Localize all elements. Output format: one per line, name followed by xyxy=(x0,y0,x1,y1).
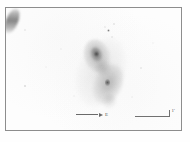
galaxy-north-nucleus xyxy=(94,51,99,57)
point-source xyxy=(140,67,142,69)
arrow-shaft xyxy=(76,114,98,115)
point-source xyxy=(113,23,115,25)
image-frame: E 1' xyxy=(5,7,182,131)
scale-bar-tick xyxy=(169,110,170,117)
scale-bar-line xyxy=(135,116,169,117)
point-source xyxy=(24,29,26,31)
galaxy-south-core xyxy=(5,7,22,35)
scale-bar-label: 1' xyxy=(172,108,175,113)
orientation-arrow-label: E xyxy=(105,112,108,117)
arrow-right-icon xyxy=(99,113,103,117)
point-source xyxy=(107,29,110,32)
point-source xyxy=(104,26,105,27)
point-source xyxy=(131,96,132,97)
point-source xyxy=(45,66,46,67)
point-source xyxy=(73,95,74,96)
point-source xyxy=(152,42,153,43)
galaxy-south-nucleus xyxy=(105,79,110,86)
scale-bar-icon: 1' xyxy=(135,107,175,120)
orientation-arrow: E xyxy=(76,112,108,117)
point-source xyxy=(111,36,113,38)
figure-panel: E 1' xyxy=(0,0,190,142)
point-source xyxy=(60,48,61,49)
